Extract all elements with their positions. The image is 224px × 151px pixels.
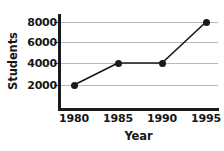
gridline-2000: [61, 85, 218, 86]
ytick-label-4000: 4000: [27, 58, 57, 69]
ytick-label-8000: 8000: [27, 17, 57, 28]
gridline-6000: [61, 42, 218, 43]
x-axis-line: [58, 108, 219, 111]
xtick-label-1990: 1990: [147, 113, 177, 125]
gridline-4000: [61, 63, 218, 64]
data-point-1990: [159, 60, 166, 67]
ytick-label-6000: 6000: [27, 37, 57, 48]
y-axis-title: Students: [6, 27, 20, 95]
xtick-label-1980: 1980: [59, 113, 89, 125]
ytick-label-2000: 2000: [27, 80, 57, 91]
gridline-8000: [61, 22, 218, 23]
data-point-1995: [203, 19, 210, 26]
line-chart-screenshot: 8000 6000 4000 2000 1980 1985 1990 1995 …: [0, 0, 224, 151]
data-point-1980: [71, 82, 78, 89]
data-point-1985: [115, 60, 122, 67]
xtick-label-1985: 1985: [103, 113, 133, 125]
xtick-label-1995: 1995: [191, 113, 221, 125]
y-axis-line: [58, 14, 61, 111]
x-axis-title: Year: [58, 129, 219, 143]
